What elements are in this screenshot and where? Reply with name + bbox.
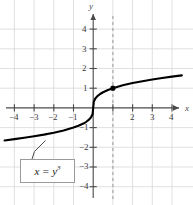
x-tick-label--1: −1 [68,113,78,122]
x-tick-label-3: 3 [150,113,155,122]
y-tick-label-3: 3 [82,45,87,54]
y-tick-label--4: −4 [79,182,89,191]
y-tick-label--3: −3 [79,162,89,171]
y-axis-label: y [89,2,93,11]
x-tick-label-4: 4 [169,113,174,122]
x-axis-label: x [185,104,189,113]
equation-label: x = y3 [34,166,60,177]
x-tick-label-2: 2 [130,113,135,122]
x-tick-label--4: −4 [9,113,19,122]
equation-base: x = y [34,165,57,177]
y-tick-label-2: 2 [82,64,87,73]
y-tick-label-4: 4 [82,25,87,34]
equation-callout-box: x = y3 [20,159,75,183]
equation-exponent: 3 [57,164,61,172]
cube-root-function-figure: −4 −3 −2 −1 2 3 4 4 3 2 1 −1 −2 −3 −4 y … [0,0,193,205]
y-tick-label-1: 1 [83,84,88,93]
marked-point-1-1 [110,86,115,91]
y-tick-label--2: −2 [79,143,89,152]
x-tick-label--2: −2 [48,113,58,122]
x-tick-label--3: −3 [29,113,39,122]
y-tick-label--1: −1 [79,123,89,132]
